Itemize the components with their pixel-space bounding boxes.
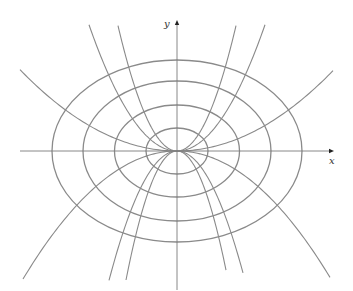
y-axis-arrow-icon [175,20,179,25]
orthogonal-trajectories-figure [0,0,353,291]
y-axis-label: y [164,18,170,29]
x-axis-label: x [329,155,335,166]
parabola-5 [118,26,177,151]
parabola-12 [177,151,226,270]
axes [20,20,334,290]
parabola-8 [177,151,330,277]
parabola-6 [177,26,236,151]
parabola-7 [23,151,177,279]
diagram-canvas: y x [0,0,353,291]
parabola-11 [126,151,177,280]
parabola-10 [177,151,243,273]
parabola-9 [109,151,177,280]
parabola-1 [20,70,177,151]
x-axis-arrow-icon [329,149,334,153]
